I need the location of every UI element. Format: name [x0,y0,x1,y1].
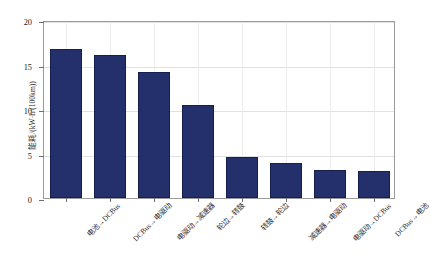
x-tick-label: DCBus→电驱动 [130,200,173,243]
x-tick-label: 轮边→转鼓 [213,200,246,233]
bar[interactable] [270,163,302,198]
y-tick: 20 [39,22,44,23]
y-tick: 5 [39,156,44,157]
bar[interactable] [358,171,390,198]
x-tick-label: 电驱动→减速器 [173,200,216,243]
y-tick: 15 [39,67,44,68]
y-tick-label: 20 [24,18,32,27]
bar[interactable] [138,72,170,198]
bar[interactable] [94,55,126,198]
x-tick-label: 电驱动→DCBus [350,200,393,243]
x-tick-label: 电池→DCBus [84,200,122,238]
y-tick-label: 0 [28,196,32,205]
bar[interactable] [226,157,258,198]
bar[interactable] [314,170,346,198]
y-tick-label: 10 [24,107,32,116]
y-tick: 10 [39,111,44,112]
x-axis-category-labels: 电池→DCBus DCBus→电驱动 电驱动→减速器 轮边→转鼓 转鼓→轮边 减… [43,200,395,273]
plot-area: 0 5 10 15 20 [43,21,395,199]
bar[interactable] [182,105,214,198]
gridline-y [44,22,394,23]
bar[interactable] [50,49,82,198]
x-tick-label: 减速器→电驱动 [305,200,348,243]
x-tick-label: 转鼓→轮边 [257,200,290,233]
y-tick-label: 15 [24,62,32,71]
x-tick-label: DCBus→电池 [392,200,430,238]
y-tick-label: 5 [28,151,32,160]
